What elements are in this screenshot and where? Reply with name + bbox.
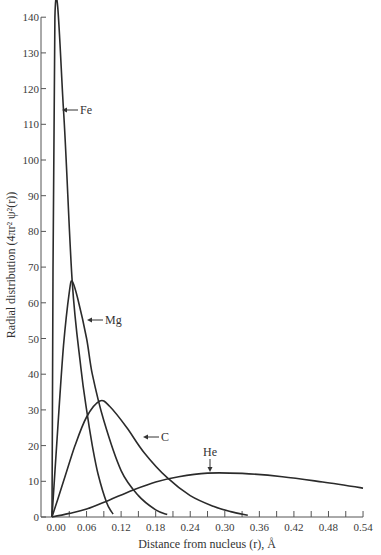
x-tick-label: 0.12 [111, 521, 130, 533]
x-tick-label: 0.18 [146, 521, 166, 533]
fe-label: Fe [80, 103, 92, 117]
curve-c [52, 400, 248, 517]
curve-fe [52, 0, 113, 517]
c-arrowhead-icon [143, 435, 148, 440]
y-tick-label: 40 [28, 368, 40, 380]
mg-arrowhead-icon [87, 318, 92, 323]
x-tick-label: 0.48 [319, 521, 339, 533]
x-tick-label: 0.42 [284, 521, 303, 533]
c-label: C [161, 430, 169, 444]
he-arrowhead-icon [208, 467, 213, 472]
annotations: FeMgCHe [62, 103, 217, 472]
y-tick-label: 70 [28, 261, 40, 273]
x-tick-label: 0.36 [250, 521, 270, 533]
y-tick-label: 140 [23, 11, 40, 23]
x-tick-label: 0.24 [181, 521, 201, 533]
mg-label: Mg [105, 313, 122, 327]
y-tick-label: 110 [23, 118, 40, 130]
y-tick-label: 10 [28, 475, 40, 487]
radial-distribution-chart: 01020304050607080901001101201301400.000.… [0, 0, 381, 555]
y-tick-label: 30 [28, 404, 40, 416]
y-tick-label: 100 [23, 154, 40, 166]
x-tick-label: 0.06 [77, 521, 97, 533]
x-tick-label: 0.54 [353, 521, 373, 533]
y-tick-label: 90 [28, 190, 40, 202]
y-tick-label: 80 [28, 225, 40, 237]
y-tick-label: 50 [28, 333, 40, 345]
y-tick-label: 60 [28, 297, 40, 309]
he-label: He [203, 445, 217, 459]
y-tick-label: 120 [23, 83, 40, 95]
tick-marks: 01020304050607080901001101201301400.000.… [23, 11, 374, 533]
x-tick-label: 0.30 [215, 521, 235, 533]
x-tick-label: 0.00 [46, 521, 66, 533]
x-axis-title: Distance from nucleus (r), Å [138, 537, 276, 551]
y-tick-label: 0 [34, 511, 40, 523]
y-axis-title: Radial distribution (4πr² ψ²(r)) [4, 192, 18, 338]
axes [41, 17, 363, 517]
axis-lines [41, 17, 363, 517]
y-tick-label: 20 [28, 440, 40, 452]
curves [52, 0, 363, 517]
y-tick-label: 130 [23, 47, 40, 59]
